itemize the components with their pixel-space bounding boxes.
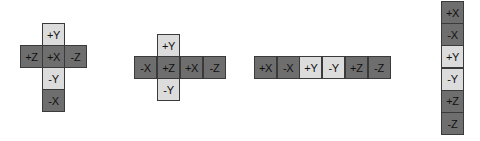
face-pos-x: +X [180,56,203,79]
face-pos-y: +Y [42,23,65,46]
face-neg-y: -Y [157,78,180,101]
face-pos-z: +Z [20,45,43,68]
face-pos-y: +Y [441,45,464,68]
face-neg-y: -Y [441,68,464,91]
face-neg-x: -X [441,23,464,46]
face-neg-y: -Y [322,56,345,79]
face-pos-z: +Z [345,56,368,79]
face-pos-x: +X [254,56,277,79]
face-pos-x: +X [42,45,65,68]
face-pos-y: +Y [157,34,180,57]
face-neg-z: -Z [203,56,226,79]
face-neg-z: -Z [64,45,87,68]
face-neg-y: -Y [42,67,65,90]
face-pos-z: +Z [441,90,464,113]
face-neg-z: -Z [441,112,464,135]
face-neg-z: -Z [368,56,391,79]
face-neg-x: -X [134,56,157,79]
face-pos-z: +Z [157,56,180,79]
face-neg-x: -X [277,56,300,79]
face-pos-y: +Y [299,56,322,79]
face-pos-x: +X [441,1,464,24]
face-neg-x: -X [42,89,65,112]
